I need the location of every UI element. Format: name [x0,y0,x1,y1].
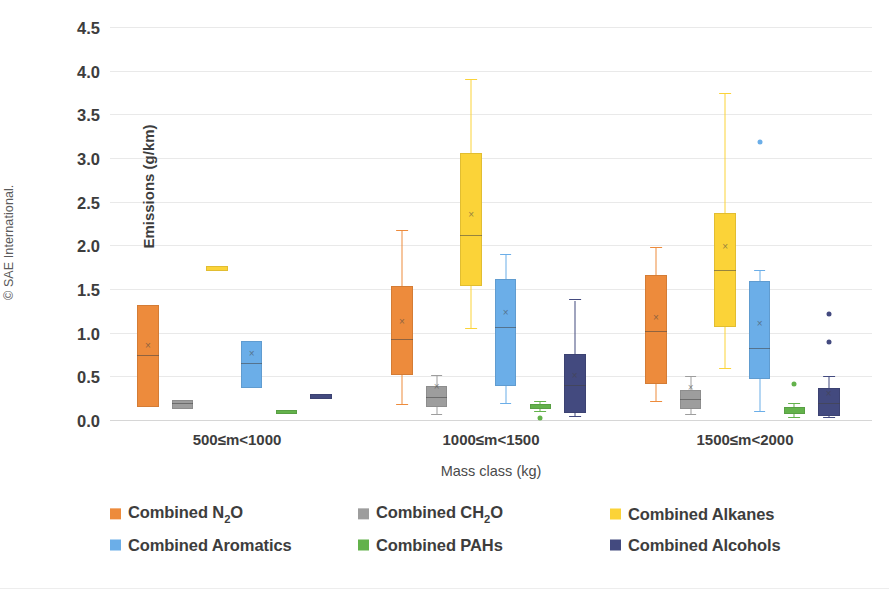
median-line [241,363,262,364]
whisker-lower [505,386,506,403]
whisker-upper [828,377,829,387]
box-iqr [495,279,516,386]
legend-label: Combined Alkanes [628,504,774,523]
median-line [391,339,412,340]
box-plot[interactable]: × [714,28,735,421]
y-axis-tick-label: 2.0 [54,237,100,256]
box-iqr [784,407,805,414]
box-plot[interactable]: × [818,28,839,421]
median-line [680,399,701,400]
box-plot[interactable] [172,28,193,421]
legend-item[interactable]: Combined Alcohols [610,535,781,554]
whisker-lower [725,327,726,369]
box-iqr [206,266,227,271]
legend-label: Combined Aromatics [128,535,292,554]
outlier-point [538,415,543,420]
chart-figure: © SAE International. 0.00.51.01.52.02.53… [0,0,889,592]
outlier-point [826,312,831,317]
legend-row: Combined N2OCombined CH2OCombined Alkane… [110,498,872,529]
legend-swatch-icon [110,508,121,519]
y-axis-tick-label: 4.5 [54,19,100,38]
legend-swatch-icon [610,539,621,550]
mean-marker: × [249,349,255,359]
mean-marker: × [572,371,578,381]
whisker-cap-lower [500,403,512,404]
box-plot[interactable]: × [495,28,516,421]
whisker-cap-upper [650,247,662,248]
median-line [749,348,770,349]
whisker-lower [402,375,403,406]
whisker-cap-upper [465,79,477,80]
box-plot[interactable]: × [460,28,481,421]
box-plot[interactable] [310,28,331,421]
mean-marker: × [145,341,151,351]
legend-swatch-icon [358,508,369,519]
legend-item[interactable]: Combined CH2O [358,503,503,524]
whisker-cap-lower [823,417,835,418]
whisker-upper [471,80,472,152]
whisker-cap-upper [685,376,697,377]
mean-marker: × [503,308,509,318]
box-plot[interactable]: × [749,28,770,421]
legend-label: Combined CH2O [376,503,503,524]
box-plot[interactable]: × [564,28,585,421]
box-iqr [645,275,666,384]
median-line [426,397,447,398]
whisker-upper [402,231,403,286]
whisker-upper [759,271,760,281]
box-plot[interactable] [276,28,297,421]
legend-swatch-icon [358,539,369,550]
box-iqr [749,281,770,379]
box-plot[interactable]: × [426,28,447,421]
whisker-cap-lower [465,328,477,329]
box-group: ×× [110,28,364,421]
legend-swatch-icon [110,539,121,550]
whisker-cap-upper [569,299,581,300]
median-line [460,235,481,236]
legend-label: Combined Alcohols [628,535,781,554]
whisker-cap-lower [650,401,662,402]
legend-label: Combined N2O [128,503,243,524]
box-plot[interactable] [530,28,551,421]
legend-item[interactable]: Combined Aromatics [110,535,292,554]
whisker-cap-upper [823,376,835,377]
y-axis-tick-label: 1.5 [54,281,100,300]
box-plot[interactable]: × [137,28,158,421]
box-iqr [564,354,585,413]
box-plot[interactable]: × [241,28,262,421]
whisker-cap-lower [719,368,731,369]
box-iqr [276,410,297,414]
whisker-cap-upper [534,401,546,402]
whisker-cap-upper [431,375,443,376]
legend-item[interactable]: Combined PAHs [358,535,503,554]
legend-item[interactable]: Combined Alkanes [610,504,774,523]
legend-item[interactable]: Combined N2O [110,503,243,524]
box-plot[interactable]: × [645,28,666,421]
median-line [137,355,158,356]
median-line [714,270,735,271]
box-group: ××××× [618,28,872,421]
box-iqr [391,286,412,375]
y-axis-tick-label: 3.0 [54,150,100,169]
x-axis-tick-label: 1500≤m<2000 [696,431,793,448]
box-iqr [530,404,551,409]
y-axis-tick-label: 1.0 [54,324,100,343]
median-line [564,385,585,386]
whisker-cap-lower [431,414,443,415]
y-axis-tick-label: 4.0 [54,62,100,81]
outlier-point [792,382,797,387]
whisker-upper [505,255,506,279]
whisker-cap-upper [500,254,512,255]
whisker-cap-upper [788,403,800,404]
median-line [495,327,516,328]
median-line [645,331,666,332]
whisker-lower [759,379,760,412]
box-plot[interactable]: × [680,28,701,421]
box-plot[interactable] [206,28,227,421]
whisker-cap-lower [569,416,581,417]
mean-marker: × [468,210,474,220]
box-plot[interactable]: × [391,28,412,421]
box-iqr [310,394,331,399]
x-axis-title: Mass class (kg) [441,463,542,479]
box-plot[interactable] [784,28,805,421]
